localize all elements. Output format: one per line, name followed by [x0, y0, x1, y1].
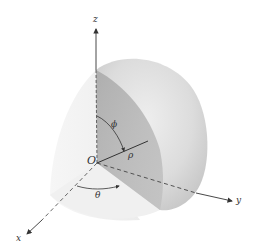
phi-label: ϕ	[111, 120, 117, 129]
diagram-graphic	[0, 0, 258, 246]
y-axis	[196, 193, 232, 201]
x-axis-label: x	[16, 234, 21, 243]
theta-label: θ	[95, 191, 100, 200]
x-axis	[27, 220, 42, 234]
y-axis-label: y	[236, 196, 241, 205]
z-axis-label: z	[93, 15, 98, 24]
spherical-coordinates-diagram: z y x O ϕ ρ θ	[0, 0, 258, 246]
origin-label: O	[87, 155, 96, 166]
rho-label: ρ	[128, 151, 133, 160]
